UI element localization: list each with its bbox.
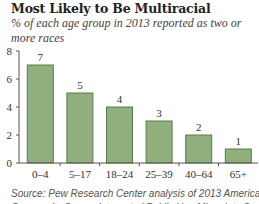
bar-chart: 02468 754321 0–45–1718–2425–3940–6465+ — [0, 0, 259, 204]
x-tick-label: 40–64 — [185, 168, 213, 180]
y-tick-label: 6 — [7, 73, 13, 85]
data-label: 2 — [196, 121, 202, 133]
data-label: 3 — [156, 107, 162, 119]
y-tick-label: 8 — [7, 45, 13, 57]
data-label: 7 — [38, 51, 44, 63]
y-tick-label: 4 — [7, 101, 13, 113]
x-tick-label: 18–24 — [106, 168, 134, 180]
x-tick-label: 25–39 — [145, 168, 173, 180]
bars: 754321 — [27, 51, 251, 163]
bar-65+ — [225, 149, 251, 163]
bar-18–24 — [107, 107, 133, 163]
x-tick-label: 5–17 — [69, 168, 92, 180]
y-axis: 02468 — [7, 45, 20, 169]
source-note: Source: Pew Research Center analysis of … — [11, 187, 259, 204]
data-label: 4 — [117, 93, 123, 105]
data-label: 5 — [77, 79, 83, 91]
source-line-2: Community Survey Integrated Public Use M… — [11, 201, 259, 204]
x-axis: 0–45–1718–2425–3940–6465+ — [19, 163, 258, 180]
bar-0–4 — [27, 65, 53, 163]
source-line-1: Source: Pew Research Center analysis of … — [11, 187, 259, 201]
bar-40–64 — [186, 135, 212, 163]
x-tick-label: 0–4 — [32, 168, 49, 180]
x-tick-label: 65+ — [230, 168, 247, 180]
bar-25–39 — [146, 121, 172, 163]
data-label: 1 — [236, 135, 242, 147]
bar-5–17 — [67, 93, 93, 163]
y-tick-label: 2 — [7, 129, 13, 141]
y-tick-label: 0 — [7, 157, 13, 169]
